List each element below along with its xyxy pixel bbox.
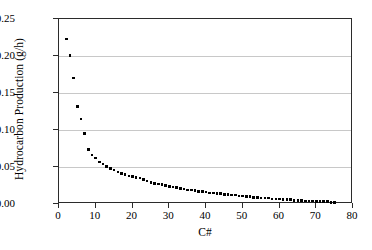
- data-point: [311, 200, 314, 203]
- y-axis-label: Hydrocarbon Production (g/h): [13, 14, 29, 204]
- data-point: [252, 196, 255, 199]
- data-point: [190, 189, 193, 192]
- data-point: [172, 186, 175, 189]
- data-point: [197, 190, 200, 193]
- data-point: [300, 199, 303, 202]
- data-point: [230, 194, 233, 197]
- data-point: [278, 198, 281, 201]
- data-point: [333, 201, 336, 204]
- y-tick-label: 0.25: [0, 11, 15, 25]
- x-tick-label: 10: [80, 208, 110, 222]
- gridline: [59, 56, 351, 57]
- x-tick-label: 60: [264, 208, 294, 222]
- plot-area: [58, 18, 352, 203]
- data-point: [267, 197, 270, 200]
- data-point: [304, 200, 307, 203]
- data-point: [227, 193, 230, 196]
- data-point: [308, 200, 311, 203]
- gridline: [59, 130, 351, 131]
- x-tick-label: 40: [190, 208, 220, 222]
- data-point: [212, 192, 215, 195]
- data-point: [120, 172, 123, 175]
- data-point: [234, 194, 237, 197]
- data-point: [319, 200, 322, 203]
- chart-figure: Hydrocarbon Production (g/h) 0.000.050.1…: [0, 0, 372, 250]
- data-point: [205, 191, 208, 194]
- data-point: [135, 176, 138, 179]
- x-tick-label: 20: [117, 208, 147, 222]
- data-point: [238, 195, 241, 198]
- y-tick-label: 0.20: [0, 48, 15, 62]
- data-point: [102, 163, 105, 166]
- data-point: [91, 154, 94, 157]
- data-point: [293, 199, 296, 202]
- y-tick-label: 0.00: [0, 196, 15, 210]
- data-point: [271, 198, 274, 201]
- data-point: [186, 189, 189, 192]
- x-tick-label: 70: [300, 208, 330, 222]
- data-point: [330, 201, 333, 204]
- data-point: [142, 178, 145, 181]
- data-point: [289, 198, 292, 201]
- gridline: [59, 93, 351, 94]
- data-point: [223, 193, 226, 196]
- data-point: [87, 148, 90, 151]
- data-point: [105, 165, 108, 168]
- data-point: [98, 161, 101, 164]
- data-point: [72, 77, 75, 80]
- x-tick-label: 50: [227, 208, 257, 222]
- data-point: [109, 167, 112, 170]
- y-tick-label: 0.05: [0, 159, 15, 173]
- data-point: [282, 198, 285, 201]
- data-point: [157, 183, 160, 186]
- data-point: [241, 195, 244, 198]
- x-axis-label: C#: [58, 226, 352, 242]
- gridline: [59, 167, 351, 168]
- x-tick-label: 30: [153, 208, 183, 222]
- y-tick-label: 0.15: [0, 85, 15, 99]
- data-point: [326, 200, 329, 203]
- data-point: [322, 200, 325, 203]
- data-point: [65, 38, 68, 41]
- data-point: [208, 192, 211, 195]
- data-point: [150, 181, 153, 184]
- data-point: [249, 195, 252, 198]
- data-point: [194, 189, 197, 192]
- data-point: [128, 175, 131, 178]
- data-point: [94, 157, 97, 160]
- data-point: [146, 180, 149, 183]
- data-point: [164, 184, 167, 187]
- data-point: [297, 199, 300, 202]
- data-point: [168, 185, 171, 188]
- x-tick-label: 80: [337, 208, 367, 222]
- data-point: [264, 197, 267, 200]
- data-point: [69, 54, 72, 57]
- data-point: [124, 173, 127, 176]
- data-point: [76, 105, 79, 108]
- data-point: [153, 182, 156, 185]
- data-point: [286, 198, 289, 201]
- data-point: [175, 186, 178, 189]
- data-point: [139, 177, 142, 180]
- data-point: [117, 171, 120, 174]
- data-point: [219, 192, 222, 195]
- data-point: [256, 196, 259, 199]
- data-point: [216, 192, 219, 195]
- data-point: [275, 198, 278, 201]
- data-point: [201, 190, 204, 193]
- data-point: [131, 175, 134, 178]
- data-point: [245, 195, 248, 198]
- data-point: [161, 183, 164, 186]
- data-point: [260, 197, 263, 200]
- y-tick-label: 0.10: [0, 122, 15, 136]
- data-point: [80, 118, 83, 121]
- data-point: [179, 187, 182, 190]
- data-point: [183, 188, 186, 191]
- data-point: [83, 132, 86, 135]
- data-point: [113, 169, 116, 172]
- x-tick-label: 0: [43, 208, 73, 222]
